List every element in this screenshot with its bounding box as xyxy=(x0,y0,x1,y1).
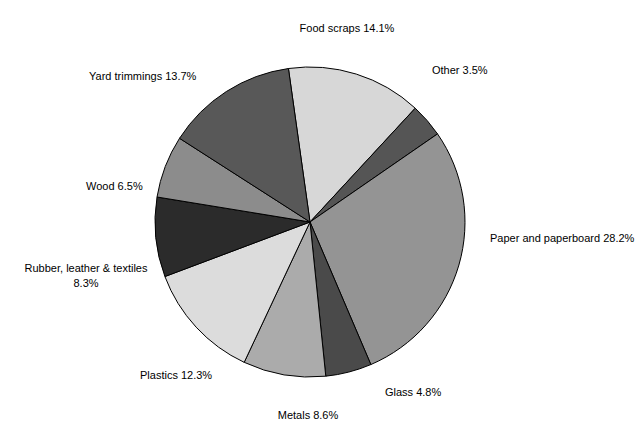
pie-label-text-yard-trimmings: Yard trimmings 13.7% xyxy=(89,70,197,82)
pie-label-paper-and-paperboard: Paper and paperboard 28.2% xyxy=(490,232,635,244)
pie-label-metals: Metals 8.6% xyxy=(278,409,339,421)
pie-chart-figure: Food scraps 14.1%Other 3.5%Paper and pap… xyxy=(0,0,644,437)
pie-label-text-rubber-leather-textiles: Rubber, leather & textiles xyxy=(25,262,148,274)
pie-label-glass: Glass 4.8% xyxy=(385,386,441,398)
pie-label-text2-rubber-leather-textiles: 8.3% xyxy=(73,277,98,289)
pie-label-wood: Wood 6.5% xyxy=(86,180,143,192)
pie-label-text-glass: Glass 4.8% xyxy=(385,386,441,398)
pie-label-text-other: Other 3.5% xyxy=(432,64,488,76)
pie-label-food-scraps: Food scraps 14.1% xyxy=(300,22,395,34)
pie-slices-group xyxy=(155,67,465,377)
pie-label-plastics: Plastics 12.3% xyxy=(140,369,212,381)
pie-label-rubber-leather-textiles: Rubber, leather & textiles8.3% xyxy=(25,262,148,289)
pie-label-other: Other 3.5% xyxy=(432,64,488,76)
pie-label-text-metals: Metals 8.6% xyxy=(278,409,339,421)
pie-chart-svg: Food scraps 14.1%Other 3.5%Paper and pap… xyxy=(0,0,644,437)
pie-label-text-plastics: Plastics 12.3% xyxy=(140,369,212,381)
pie-label-text-paper-and-paperboard: Paper and paperboard 28.2% xyxy=(490,232,635,244)
pie-label-text-food-scraps: Food scraps 14.1% xyxy=(300,22,395,34)
pie-label-text-wood: Wood 6.5% xyxy=(86,180,143,192)
pie-label-yard-trimmings: Yard trimmings 13.7% xyxy=(89,70,197,82)
